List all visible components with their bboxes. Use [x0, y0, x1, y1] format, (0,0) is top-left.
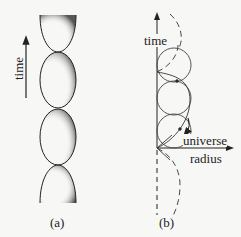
panel-b-caption: (b)	[159, 216, 174, 229]
panel-b-universe-label: universe	[183, 134, 227, 147]
panel-b-radius-label: radius	[190, 152, 222, 165]
panel-a-time-label: time	[12, 57, 25, 80]
figure-canvas	[0, 0, 241, 237]
panel-a-bubble-chain	[40, 15, 76, 203]
panel-a-caption: (a)	[50, 216, 64, 229]
panel-b-time-label: time	[144, 34, 167, 47]
